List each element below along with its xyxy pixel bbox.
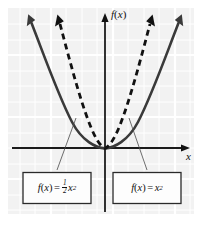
- axis-label-y-close: ): [123, 8, 127, 20]
- left-fraction: 12: [62, 180, 68, 196]
- left-equals: =: [52, 183, 61, 194]
- callout-label-right: f(x)=x2: [113, 173, 181, 203]
- parabola-comparison-figure: f(x) x f(x)=12x2 f(x)=x2: [0, 0, 202, 234]
- left-denominator: 2: [62, 187, 68, 195]
- left-numerator: 1: [62, 180, 68, 187]
- left-base: x: [68, 183, 73, 194]
- right-equals: =: [146, 183, 155, 194]
- callout-label-left: f(x)=12x2: [23, 173, 91, 203]
- axis-label-x: x: [186, 151, 191, 162]
- axis-label-y: f(x): [111, 9, 126, 20]
